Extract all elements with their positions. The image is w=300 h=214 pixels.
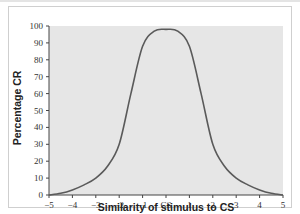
y-tick-label: 10 [34,173,44,183]
y-tick-label: 70 [34,72,44,82]
y-tick-label: 50 [34,106,44,116]
generalization-chart: 0102030405060708090100 −5−4−3−2−1CS12345 [0,0,300,214]
y-tick-label: 100 [30,21,44,31]
y-tick-label: 40 [34,122,44,132]
y-axis-label: Percentage CR [11,8,23,208]
y-tick-label: 80 [34,55,44,65]
plot-area [49,26,283,195]
y-tick-label: 60 [34,89,44,99]
y-axis: 0102030405060708090100 [30,21,50,200]
x-axis-label: Similarity of stimulus to CS [49,201,283,213]
y-tick-label: 30 [34,139,44,149]
y-tick-label: 20 [34,156,44,166]
y-tick-label: 90 [34,38,44,48]
y-tick-label: 0 [39,190,44,200]
